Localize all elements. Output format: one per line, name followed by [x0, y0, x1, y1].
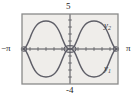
curve-label-y1-subscript: 1 — [108, 68, 111, 74]
curve-label-y2: y2 — [104, 20, 111, 31]
graph-figure: 5 -4 −π π y2 y1 — [0, 0, 140, 98]
window-ymin-label: -4 — [66, 86, 74, 95]
plot-svg — [0, 0, 140, 98]
window-ymax-label: 5 — [66, 2, 71, 11]
curve-label-y1: y1 — [104, 63, 111, 74]
curve-label-y2-subscript: 2 — [108, 25, 111, 31]
window-xmax-label: π — [126, 44, 131, 53]
window-xmin-label: −π — [1, 44, 11, 53]
